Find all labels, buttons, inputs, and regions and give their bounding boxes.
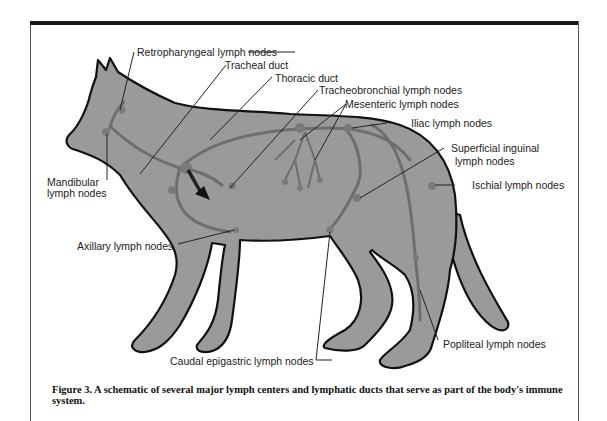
- label-mandibular-line2: lymph nodes: [47, 187, 107, 199]
- label-retropharyngeal-lymph-nodes: Retropharyngeal lymph nodes: [137, 46, 277, 58]
- label-iliac-lymph-nodes: Iliac lymph nodes: [411, 117, 492, 129]
- label-ischial-lymph-nodes: Ischial lymph nodes: [472, 179, 564, 191]
- label-tracheobronchial-lymph-nodes: Tracheobronchial lymph nodes: [319, 84, 462, 96]
- label-thoracic-duct: Thoracic duct: [275, 72, 338, 84]
- label-axillary-lymph-nodes: Axillary lymph nodes: [77, 240, 173, 252]
- label-popliteal-lymph-nodes: Popliteal lymph nodes: [443, 338, 546, 350]
- label-caudal-epigastric-lymph-nodes: Caudal epigastric lymph nodes: [170, 355, 314, 367]
- label-mesenteric-lymph-nodes: Mesenteric lymph nodes: [345, 98, 459, 110]
- label-tracheal-duct: Tracheal duct: [225, 59, 288, 71]
- label-superficial-inguinal-line1: Superficial inguinal: [451, 142, 539, 154]
- figure-caption: Figure 3. A schematic of several major l…: [52, 384, 572, 406]
- label-superficial-inguinal-line2: lymph nodes: [455, 155, 515, 167]
